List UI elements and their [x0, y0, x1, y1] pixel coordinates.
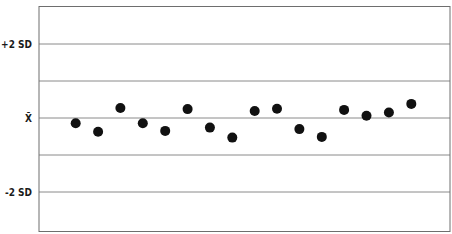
data-point — [339, 105, 349, 115]
data-point — [205, 123, 215, 133]
control-chart: +2 SDX̄-2 SD — [0, 0, 452, 234]
data-point — [272, 104, 282, 114]
y-tick-label: X̄ — [25, 112, 32, 124]
data-point — [93, 127, 103, 137]
data-point — [115, 103, 125, 113]
plot-background — [39, 7, 450, 232]
data-point — [406, 99, 416, 109]
data-point — [71, 118, 81, 128]
data-point — [384, 108, 394, 118]
y-axis-labels: +2 SDX̄-2 SD — [1, 39, 32, 198]
data-point — [138, 118, 148, 128]
y-tick-label: -2 SD — [5, 187, 32, 198]
y-tick-label: +2 SD — [1, 39, 32, 50]
data-point — [227, 133, 237, 143]
data-point — [183, 104, 193, 114]
data-point — [250, 106, 260, 116]
data-point — [160, 126, 170, 136]
data-point — [294, 124, 304, 134]
data-point — [362, 111, 372, 121]
data-point — [317, 132, 327, 142]
